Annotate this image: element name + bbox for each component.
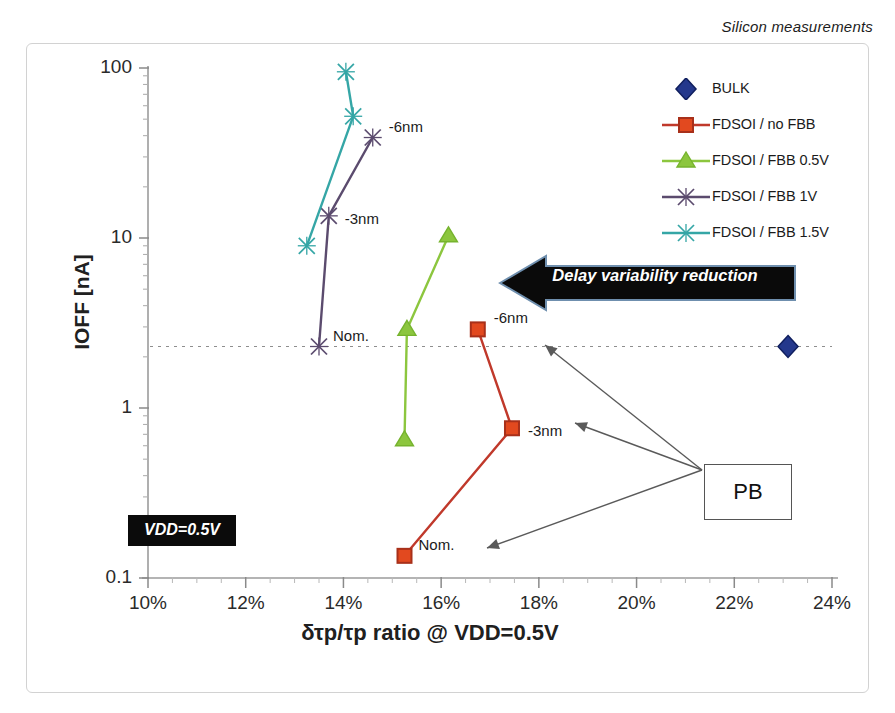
pb-leader-line-2 [487, 470, 702, 548]
legend-item-label: FDSOI / FBB 1.5V [712, 224, 829, 240]
legend-item[interactable]: BULK [660, 72, 875, 103]
legend-marker-icon [660, 222, 712, 242]
x-tick-label: 22% [699, 592, 769, 614]
legend-item-label: FDSOI / FBB 0.5V [712, 152, 829, 168]
point-label: -6nm [389, 118, 423, 135]
y-tick-label: 0.1 [62, 566, 132, 588]
x-tick-label: 20% [602, 592, 672, 614]
point-label: -6nm [494, 309, 528, 326]
y-tick-label: 10 [62, 226, 132, 248]
legend-item[interactable]: FDSOI / FBB 0.5V [660, 144, 875, 175]
x-tick-label: 18% [504, 592, 574, 614]
point-label: Nom. [419, 536, 455, 553]
legend-item-label: BULK [712, 80, 749, 96]
x-tick-label: 24% [797, 592, 867, 614]
legend-item[interactable]: FDSOI / FBB 1.5V [660, 216, 875, 247]
y-tick-label: 100 [62, 56, 132, 78]
x-tick-label: 10% [113, 592, 183, 614]
x-axis-title: δτp/τp ratio @ VDD=0.5V [150, 620, 710, 646]
vdd-condition-badge: VDD=0.5V [128, 515, 236, 546]
y-tick-label: 1 [62, 396, 132, 418]
chart-legend: BULKFDSOI / no FBBFDSOI / FBB 0.5VFDSOI … [660, 72, 875, 252]
pb-leader-line-0 [545, 345, 702, 470]
legend-marker-icon [660, 150, 712, 170]
legend-item[interactable]: FDSOI / no FBB [660, 108, 875, 139]
legend-marker-icon [660, 114, 712, 134]
legend-marker-icon [660, 78, 712, 98]
x-tick-label: 12% [211, 592, 281, 614]
chart-page: Silicon measurements IOFF [nA] δτp/τp ra… [0, 0, 895, 713]
x-tick-label: 16% [406, 592, 476, 614]
legend-marker-icon [660, 186, 712, 206]
point-label: -3nm [528, 422, 562, 439]
legend-item-label: FDSOI / no FBB [712, 116, 815, 132]
point-label: -3nm [345, 210, 379, 227]
x-tick-label: 14% [308, 592, 378, 614]
pb-callout-box: PB [704, 464, 792, 520]
pb-leader-line-1 [575, 423, 702, 470]
legend-item[interactable]: FDSOI / FBB 1V [660, 180, 875, 211]
legend-item-label: FDSOI / FBB 1V [712, 188, 817, 204]
point-label: Nom. [333, 327, 369, 344]
delay-reduction-banner [500, 256, 795, 310]
